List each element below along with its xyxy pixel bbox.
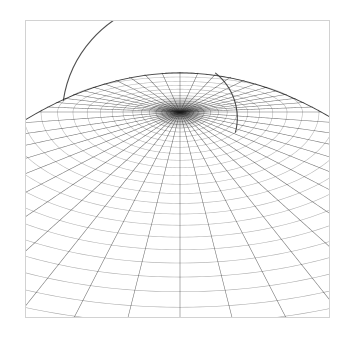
wireframe-sphere-mesh bbox=[26, 21, 329, 317]
figure-root bbox=[0, 0, 358, 338]
plot-frame bbox=[25, 20, 330, 318]
